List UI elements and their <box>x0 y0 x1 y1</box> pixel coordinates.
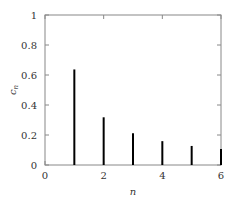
y-axis-label: cn <box>7 84 20 95</box>
x-axis-label: n <box>130 186 136 197</box>
stem-chart: 00.20.40.60.810246ncn <box>0 0 231 201</box>
y-tick-label: 0.6 <box>21 70 37 81</box>
y-tick-label: 1 <box>31 10 37 21</box>
y-tick-label: 0.4 <box>21 100 37 111</box>
x-tick-label: 0 <box>42 170 48 181</box>
x-tick-label: 2 <box>100 170 106 181</box>
y-tick-label: 0.2 <box>21 130 37 141</box>
data-bars <box>74 69 221 165</box>
x-tick-label: 6 <box>218 170 224 181</box>
axis-labels: 00.20.40.60.810246ncn <box>7 10 224 198</box>
y-tick-label: 0 <box>31 160 37 171</box>
y-axis-label-subscript: n <box>12 84 20 89</box>
y-tick-label: 0.8 <box>21 40 37 51</box>
x-tick-label: 4 <box>159 170 165 181</box>
